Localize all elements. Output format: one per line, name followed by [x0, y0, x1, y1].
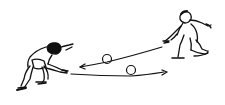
arrow-right-to-left — [80, 47, 162, 69]
arrow-left-to-right — [71, 70, 167, 76]
illustration-scene: Line drawing of two crouching people rol… — [0, 0, 225, 105]
lower-ball — [127, 66, 136, 75]
right-person-figure — [163, 11, 211, 58]
ball-rolling-drawing — [0, 0, 225, 105]
left-person-figure — [17, 43, 73, 90]
